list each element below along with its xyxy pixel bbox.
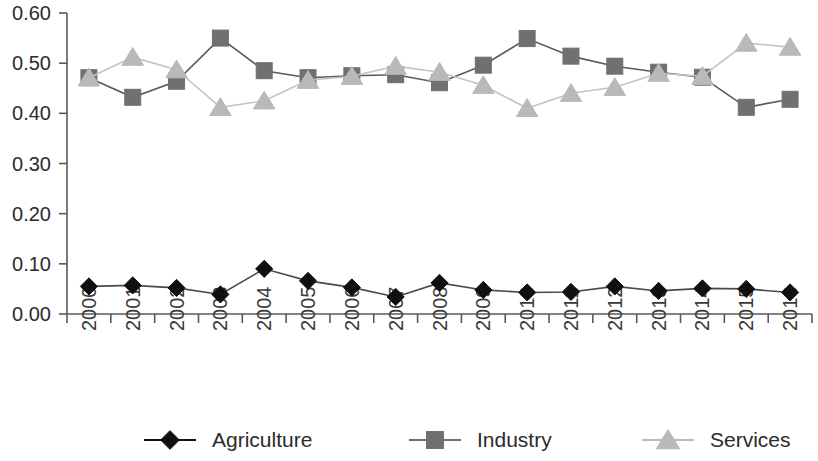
series-services — [78, 34, 801, 117]
legend-item-agriculture[interactable]: Agriculture — [144, 428, 312, 451]
data-point — [473, 76, 495, 94]
data-point — [475, 57, 491, 73]
data-point — [256, 260, 273, 277]
y-tick-label: 0.50 — [12, 52, 51, 74]
legend-marker-square-icon — [427, 432, 444, 449]
x-tick-label: 2008 — [429, 287, 451, 332]
data-point — [122, 48, 144, 66]
chart-canvas: 0.000.100.200.300.400.500.60 20002001200… — [0, 0, 818, 461]
line-chart: 0.000.100.200.300.400.500.60 20002001200… — [0, 0, 818, 461]
y-tick-label: 0.10 — [12, 253, 51, 275]
data-point — [516, 99, 538, 117]
data-point — [256, 63, 272, 79]
data-point — [604, 78, 626, 96]
chart-legend: AgricultureIndustryServices — [144, 428, 791, 451]
data-point — [166, 60, 188, 78]
data-point — [738, 99, 754, 115]
data-point — [782, 91, 798, 107]
legend-marker-diamond-icon — [161, 431, 180, 450]
data-point — [385, 57, 407, 75]
data-point — [212, 30, 228, 46]
series-layer — [78, 30, 801, 305]
legend-item-industry[interactable]: Industry — [409, 428, 552, 451]
y-tick-label: 0.40 — [12, 102, 51, 124]
y-tick-label: 0.00 — [12, 303, 51, 325]
y-tick-label: 0.30 — [12, 153, 51, 175]
x-tick-label: 2005 — [297, 287, 319, 332]
y-axis: 0.000.100.200.300.400.500.60 — [12, 2, 67, 325]
legend-label: Services — [710, 428, 791, 451]
legend-label: Industry — [477, 428, 552, 451]
x-tick-label: 2004 — [253, 287, 275, 332]
data-point — [563, 48, 579, 64]
legend-item-services[interactable]: Services — [642, 428, 791, 451]
legend-label: Agriculture — [212, 428, 312, 451]
data-point — [125, 89, 141, 105]
y-tick-label: 0.60 — [12, 2, 51, 24]
data-point — [607, 58, 623, 74]
data-point — [519, 31, 535, 47]
data-point — [253, 91, 275, 109]
y-tick-label: 0.20 — [12, 203, 51, 225]
data-point — [736, 34, 758, 52]
